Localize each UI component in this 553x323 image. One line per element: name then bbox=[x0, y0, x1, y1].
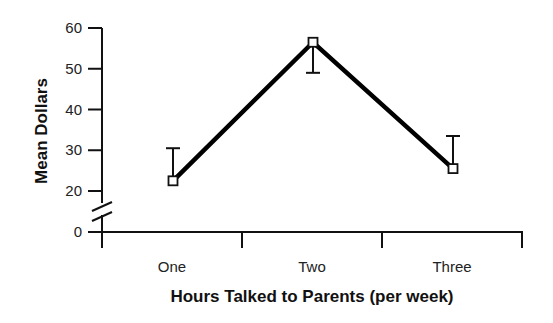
x-axis: OneTwoThree bbox=[88, 232, 523, 275]
data-point-marker bbox=[169, 176, 178, 185]
x-axis-title: Hours Talked to Parents (per week) bbox=[170, 287, 453, 306]
x-tick-label: Two bbox=[298, 258, 326, 275]
y-axis: 02030405060 bbox=[65, 19, 112, 248]
plot-area bbox=[166, 38, 460, 186]
y-tick-label: 60 bbox=[65, 19, 82, 36]
y-tick-label: 0 bbox=[74, 223, 82, 240]
y-axis-title: Mean Dollars bbox=[32, 78, 51, 184]
x-tick-label: One bbox=[158, 258, 186, 275]
x-tick-label: Three bbox=[432, 258, 471, 275]
y-tick-label: 20 bbox=[65, 182, 82, 199]
y-tick-label: 30 bbox=[65, 141, 82, 158]
axis-break-mark bbox=[92, 202, 112, 211]
line-chart: 02030405060 OneTwoThree Mean Dollars Hou… bbox=[0, 0, 553, 323]
y-tick-label: 50 bbox=[65, 60, 82, 77]
data-point-marker bbox=[449, 164, 458, 173]
y-tick-label: 40 bbox=[65, 101, 82, 118]
data-point-marker bbox=[309, 38, 318, 47]
